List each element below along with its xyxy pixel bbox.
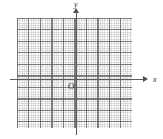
grid-panel bbox=[17, 18, 132, 128]
x-axis-label: x bbox=[153, 76, 157, 84]
origin-label: O bbox=[68, 82, 75, 91]
major-gridlines bbox=[17, 18, 132, 128]
coordinate-plane-figure: x y O bbox=[0, 0, 163, 139]
x-axis-line bbox=[10, 79, 146, 80]
y-axis-label: y bbox=[74, 1, 78, 9]
y-axis-line bbox=[76, 13, 77, 135]
x-axis-arrow-icon bbox=[143, 76, 148, 82]
